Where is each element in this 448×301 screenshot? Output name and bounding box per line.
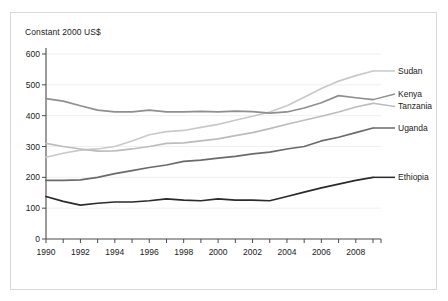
data-series-lines: [46, 71, 373, 205]
y-tick-label: 500: [12, 80, 40, 90]
x-tick-label: 2002: [238, 247, 268, 257]
x-tick-label: 2006: [306, 247, 336, 257]
x-tick-label: 1998: [169, 247, 199, 257]
series-label-ethiopia: Ethiopia: [398, 172, 429, 182]
x-tick-label: 1990: [31, 247, 61, 257]
series-label-uganda: Uganda: [398, 123, 428, 133]
series-line-ethiopia: [46, 177, 373, 205]
series-line-tanzania: [46, 103, 373, 151]
chart-figure: Constant 2000 US$ 0100200300400500600 19…: [10, 12, 437, 290]
x-tick-label: 1996: [134, 247, 164, 257]
y-tick-label: 200: [12, 172, 40, 182]
y-tick-label: 400: [12, 111, 40, 121]
leader-line-tanzania: [373, 103, 395, 106]
y-tick-label: 300: [12, 142, 40, 152]
series-line-sudan: [46, 71, 373, 157]
x-axis-ticks: [46, 239, 381, 243]
x-tick-label: 2004: [272, 247, 302, 257]
x-tick-label: 2008: [341, 247, 371, 257]
series-label-leader-lines: [373, 71, 395, 177]
series-label-kenya: Kenya: [398, 89, 422, 99]
y-tick-label: 600: [12, 49, 40, 59]
series-label-tanzania: Tanzania: [398, 101, 432, 111]
y-axis-ticks: [42, 54, 46, 239]
x-tick-label: 2000: [203, 247, 233, 257]
y-tick-label: 100: [12, 203, 40, 213]
x-tick-label: 1992: [65, 247, 95, 257]
y-tick-label: 0: [12, 234, 40, 244]
leader-line-kenya: [373, 94, 395, 100]
x-tick-label: 1994: [100, 247, 130, 257]
axis-lines: [46, 48, 381, 239]
series-line-kenya: [46, 96, 373, 114]
series-line-uganda: [46, 128, 373, 180]
series-label-sudan: Sudan: [398, 66, 423, 76]
